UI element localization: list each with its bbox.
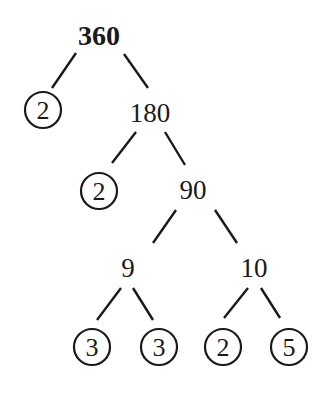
edge-180-90 bbox=[165, 132, 185, 165]
node-180: 180 bbox=[130, 98, 171, 128]
prime-node-2-level2: 2 bbox=[81, 173, 117, 209]
prime-label: 3 bbox=[86, 333, 99, 362]
edge-10-2 bbox=[224, 288, 248, 318]
edge-9-3b bbox=[133, 288, 153, 320]
prime-node-5: 5 bbox=[271, 329, 307, 365]
edge-10-5 bbox=[261, 288, 280, 318]
edge-180-2 bbox=[112, 132, 136, 163]
prime-node-2-level1: 2 bbox=[25, 92, 61, 128]
edge-90-9 bbox=[153, 210, 176, 243]
prime-node-3-a: 3 bbox=[74, 329, 110, 365]
prime-label: 2 bbox=[93, 177, 106, 206]
prime-label: 2 bbox=[217, 333, 230, 362]
prime-node-3-b: 3 bbox=[141, 329, 177, 365]
factor-tree-diagram: 360 180 90 9 10 2 2 3 3 2 5 bbox=[0, 0, 327, 395]
node-360-root: 360 bbox=[78, 20, 120, 51]
node-90: 90 bbox=[180, 175, 207, 205]
prime-node-2-level4: 2 bbox=[205, 329, 241, 365]
node-9: 9 bbox=[121, 253, 135, 283]
edge-360-180 bbox=[124, 54, 148, 88]
prime-label: 5 bbox=[283, 333, 296, 362]
prime-label: 3 bbox=[153, 333, 166, 362]
edge-9-3a bbox=[97, 288, 121, 320]
edge-90-10 bbox=[215, 210, 237, 243]
edge-360-2 bbox=[52, 53, 76, 88]
node-10: 10 bbox=[241, 253, 268, 283]
prime-label: 2 bbox=[37, 96, 50, 125]
composite-nodes: 360 180 90 9 10 bbox=[78, 20, 268, 283]
